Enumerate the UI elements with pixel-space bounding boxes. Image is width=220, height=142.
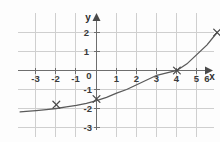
y-tick-label-2: 2: [84, 27, 89, 38]
y-tick-label--1: -1: [84, 84, 93, 95]
x-tick-label-0: 0: [86, 70, 91, 81]
x-tick-label-2: 2: [134, 73, 139, 84]
y-axis-arrow-icon: [93, 13, 101, 21]
marker-point-d: [214, 29, 220, 36]
x-tick-labels: -3 -2 -1 0 1 2 3 4 5 6: [31, 70, 209, 84]
x-tick-label-5: 5: [194, 73, 200, 84]
coordinate-plane: -3 -2 -1 0 1 2 3 4 5 6 2 1 -1 -2 -3 x y: [0, 0, 220, 142]
y-tick-label--2: -2: [84, 103, 92, 114]
y-tick-label--3: -3: [84, 122, 92, 133]
y-axis-title: y: [85, 12, 91, 23]
x-tick-label-4: 4: [174, 73, 180, 84]
x-tick-label--3: -3: [31, 73, 39, 84]
graph-figure: -3 -2 -1 0 1 2 3 4 5 6 2 1 -1 -2 -3 x y: [0, 0, 220, 142]
x-axis-title: x: [209, 71, 215, 82]
x-tick-label--1: -1: [71, 73, 80, 84]
x-tick-label-1: 1: [114, 73, 120, 84]
y-axis: [93, 13, 101, 130]
marker-point-a: [53, 101, 60, 108]
x-tick-label--2: -2: [51, 73, 59, 84]
y-tick-label-1: 1: [84, 46, 90, 57]
